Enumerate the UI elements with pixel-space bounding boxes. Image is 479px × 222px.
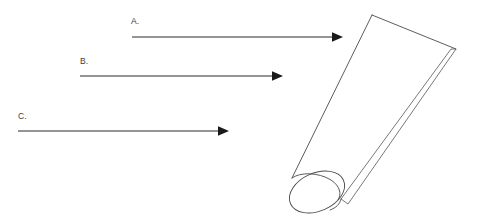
callout-a-arrowhead-icon [332, 32, 343, 42]
callout-c-label: C. [18, 111, 27, 121]
callout-c[interactable]: C. [18, 111, 229, 136]
tube-object [283, 15, 456, 221]
diagram-figure: A. B. C. [0, 0, 479, 222]
callout-c-arrowhead-icon [218, 126, 229, 136]
diagram-canvas: A. B. C. [0, 0, 479, 222]
tube-seam-bottom-closure [341, 199, 348, 204]
callout-a[interactable]: A. [131, 16, 343, 42]
callout-b-label: B. [80, 56, 88, 66]
callout-b-arrowhead-icon [272, 71, 283, 81]
callout-a-label: A. [131, 16, 139, 26]
callout-b[interactable]: B. [80, 56, 283, 81]
tube-front-face-fill [299, 15, 448, 205]
